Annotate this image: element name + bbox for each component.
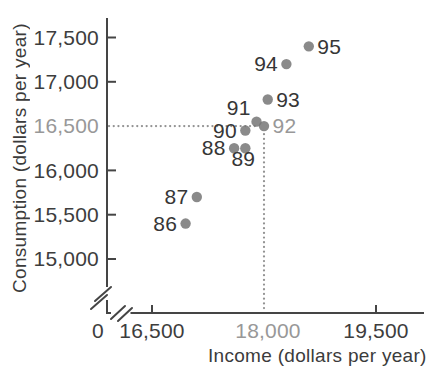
point-label-91: 91 <box>227 96 251 119</box>
data-point-1993 <box>263 94 273 104</box>
point-label-95: 95 <box>317 35 341 58</box>
x-tick-label-18000: 18,000 <box>235 319 300 342</box>
y-tick-label-17500: 17,500 <box>34 26 99 49</box>
data-point-1987 <box>192 192 202 202</box>
data-point-1990 <box>240 125 250 135</box>
point-label-89: 89 <box>231 147 255 170</box>
x-tick-label-zero: 0 <box>92 319 104 342</box>
point-label-87: 87 <box>165 185 189 208</box>
axis-break-marks <box>91 287 132 321</box>
data-point-1994 <box>281 59 291 69</box>
x-axis-title: Income (dollars per year) <box>208 345 420 367</box>
data-point-1986 <box>180 218 190 228</box>
x-tick-label-19500: 19,500 <box>343 319 408 342</box>
point-label-94: 94 <box>254 52 278 75</box>
chart-canvas: 17,50017,00016,50016,00015,50015,000016,… <box>0 0 428 379</box>
y-tick-label-16500: 16,500 <box>34 114 99 137</box>
y-tick-label-15000: 15,000 <box>34 247 99 270</box>
y-tick-label-16000: 16,000 <box>34 159 99 182</box>
point-label-90: 90 <box>213 119 237 142</box>
y-tick-label-17000: 17,000 <box>34 70 99 93</box>
point-label-86: 86 <box>153 212 177 235</box>
data-point-1992 <box>259 121 269 131</box>
consumption-function-scatter-chart: 17,50017,00016,50016,00015,50015,000016,… <box>0 0 428 379</box>
x-tick-label-16500: 16,500 <box>119 319 184 342</box>
data-point-1995 <box>304 41 314 51</box>
y-tick-label-15500: 15,500 <box>34 203 99 226</box>
point-label-93: 93 <box>276 88 300 111</box>
y-axis-title: Consumption (dollars per year) <box>1 0 39 316</box>
point-label-92: 92 <box>273 114 297 137</box>
